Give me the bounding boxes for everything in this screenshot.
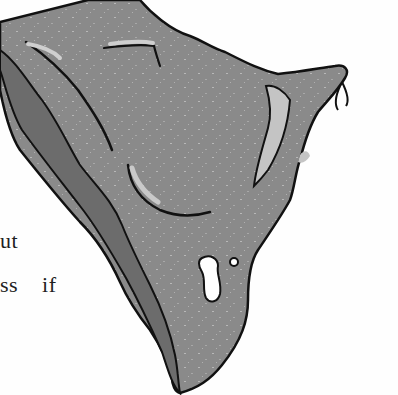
cloth-illustration	[0, 0, 398, 395]
book-page: ut ss if	[0, 0, 398, 395]
crease-tip	[342, 82, 348, 106]
hole-small	[230, 258, 238, 266]
cloth-body	[0, 0, 347, 393]
